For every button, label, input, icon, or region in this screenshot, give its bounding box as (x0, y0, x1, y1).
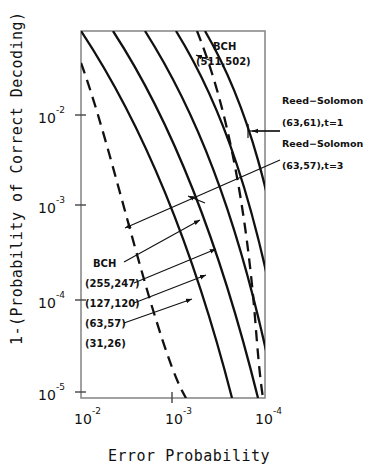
y-tick-exponent: -2 (56, 105, 65, 115)
y-tick-exponent: -5 (56, 382, 65, 392)
error-probability-chart: 10 -2 10 -3 10 -4 10 -5 10 -2 10 -3 10 -… (0, 0, 370, 475)
x-tick-exponent: -4 (273, 406, 282, 416)
y-tick-exponent: -4 (56, 290, 65, 300)
annotation-63-57: (63,57) (85, 318, 126, 329)
y-tick-mantissa: 10 (38, 387, 56, 403)
x-tick-mantissa: 10 (255, 411, 273, 427)
annotation-bch-label: BCH (213, 41, 236, 52)
y-tick-mantissa: 10 (38, 110, 56, 126)
x-tick-mantissa: 10 (165, 411, 183, 427)
annotation-255-247: (255,247) (85, 278, 140, 289)
annotation-rs1-name: Reed−Solomon (282, 95, 364, 106)
y-tick-mantissa: 10 (38, 200, 56, 216)
y-tick-mantissa: 10 (38, 295, 56, 311)
annotation-bch2-label: BCH (93, 258, 116, 269)
x-axis-title: Error Probability (108, 447, 270, 465)
chart-background (0, 0, 370, 475)
chart-root: 10 -2 10 -3 10 -4 10 -5 10 -2 10 -3 10 -… (0, 0, 370, 475)
annotation-31-26: (31,26) (85, 338, 126, 349)
x-tick-mantissa: 10 (74, 411, 92, 427)
annotation-rs2-code: (63,57),t=3 (282, 160, 343, 171)
y-tick-exponent: -3 (56, 195, 65, 205)
y-axis-title: 1-(Probability of Correct Decoding) (8, 11, 26, 345)
annotation-127-120: (127,120) (85, 298, 140, 309)
annotation-rs2-name: Reed−Solomon (282, 138, 364, 149)
x-tick-exponent: -2 (92, 406, 101, 416)
x-tick-exponent: -3 (183, 406, 192, 416)
annotation-rs1-code: (63,61),t=1 (282, 117, 343, 128)
